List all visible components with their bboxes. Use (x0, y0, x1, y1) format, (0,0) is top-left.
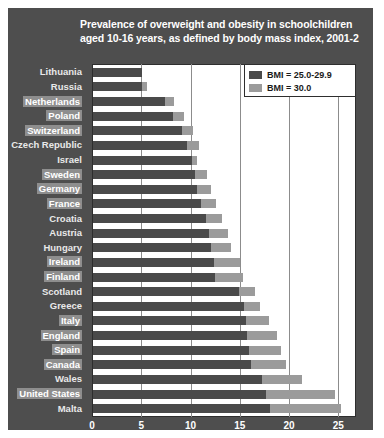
bar-segment-overweight (93, 258, 214, 267)
bar-row (93, 346, 355, 355)
bar-row (93, 97, 355, 106)
bar-segment-overweight (93, 97, 165, 106)
bar-row (93, 404, 355, 413)
bar-segment-overweight (93, 112, 173, 121)
chart-title: Prevalence of overweight and obesity in … (80, 18, 368, 45)
bar-segment-overweight (93, 170, 195, 179)
category-label-austria: Austria (49, 227, 82, 239)
bar-segment-overweight (93, 185, 197, 194)
bar-segment-obese (266, 390, 335, 399)
bar-row (93, 273, 355, 282)
category-label-greece: Greece (50, 300, 82, 312)
bar-segment-obese (239, 287, 255, 296)
category-label-germany: Germany (37, 183, 82, 195)
bar-row (93, 229, 355, 238)
bar-segment-overweight (93, 199, 201, 208)
category-label-croatia: Croatia (49, 213, 82, 225)
category-label-ireland: Ireland (47, 256, 82, 268)
bar-segment-obese (211, 243, 231, 252)
category-label-united-states: United States (17, 388, 82, 400)
chart-figure: Prevalence of overweight and obesity in … (0, 0, 384, 438)
bar-row (93, 302, 355, 311)
bar-segment-obese (182, 126, 194, 135)
bar-segment-overweight (93, 229, 209, 238)
bar-row (93, 258, 355, 267)
bar-row (93, 170, 355, 179)
bar-segment-obese (262, 375, 301, 384)
category-label-poland: Poland (46, 110, 82, 122)
bar-row (93, 360, 355, 369)
legend-item-obese: BMI = 30.0 (249, 81, 351, 94)
bar-segment-overweight (93, 156, 192, 165)
bar-segment-obese (206, 214, 222, 223)
bar-segment-obese (192, 156, 198, 165)
x-tick-label-25: 25 (333, 420, 344, 431)
category-axis-labels: LithuaniaRussiaNetherlandsPolandSwitzerl… (8, 64, 88, 417)
x-tick-label-0: 0 (89, 420, 95, 431)
bar-segment-overweight (93, 141, 187, 150)
bar-row (93, 141, 355, 150)
bar-segment-obese (165, 97, 174, 106)
legend-swatch-overweight-icon (249, 71, 262, 79)
bar-row (93, 214, 355, 223)
chart-title-line-2: aged 10-16 years, as defined by body mas… (80, 32, 368, 46)
chart-panel: Prevalence of overweight and obesity in … (8, 8, 373, 430)
bar-segment-overweight (93, 126, 182, 135)
category-label-switzerland: Switzerland (25, 125, 82, 137)
x-tick-label-20: 20 (283, 420, 294, 431)
bar-segment-obese (251, 360, 286, 369)
category-label-finland: Finland (44, 271, 82, 283)
x-tick-label-15: 15 (234, 420, 245, 431)
bar-row (93, 185, 355, 194)
bar-row (93, 390, 355, 399)
bar-segment-overweight (93, 404, 270, 413)
x-tick-label-10: 10 (185, 420, 196, 431)
bar-row (93, 316, 355, 325)
legend-label-obese: BMI = 30.0 (267, 83, 311, 93)
bar-segment-overweight (93, 302, 244, 311)
bar-segment-overweight (93, 316, 246, 325)
bar-segment-obese (214, 258, 240, 267)
chart-legend: BMI = 25.0-29.9 BMI = 30.0 (244, 64, 356, 97)
bar-segment-overweight (93, 243, 211, 252)
category-label-spain: Spain (52, 344, 82, 356)
bar-segment-obese (173, 112, 184, 121)
legend-swatch-obese-icon (249, 84, 262, 92)
category-label-france: France (47, 198, 82, 210)
bar-segment-obese (215, 273, 243, 282)
bar-segment-overweight (93, 82, 142, 91)
bar-segment-obese (187, 141, 200, 150)
category-label-sweden: Sweden (42, 169, 82, 181)
plot-area (92, 64, 356, 417)
x-tick-label-5: 5 (138, 420, 144, 431)
bar-row (93, 156, 355, 165)
bar-segment-obese (244, 302, 261, 311)
legend-item-overweight: BMI = 25.0-29.9 (249, 68, 351, 81)
bar-segment-obese (249, 346, 282, 355)
bar-segment-obese (195, 170, 207, 179)
category-label-netherlands: Netherlands (23, 96, 82, 108)
bar-row (93, 287, 355, 296)
bar-segment-overweight (93, 360, 251, 369)
bar-segment-overweight (93, 68, 142, 77)
category-label-czech-republic: Czech Republic (11, 139, 82, 151)
category-label-lithuania: Lithuania (40, 66, 82, 78)
category-label-italy: Italy (59, 315, 82, 327)
bar-row (93, 126, 355, 135)
bar-segment-obese (247, 331, 278, 340)
bar-segment-overweight (93, 331, 247, 340)
bar-segment-overweight (93, 214, 206, 223)
bar-segment-obese (209, 229, 228, 238)
category-label-wales: Wales (55, 373, 82, 385)
category-label-england: England (41, 330, 82, 342)
bar-segment-overweight (93, 375, 262, 384)
legend-label-overweight: BMI = 25.0-29.9 (267, 70, 332, 80)
bar-row (93, 331, 355, 340)
value-axis: 0510152025 (92, 417, 356, 438)
category-label-russia: Russia (51, 81, 82, 93)
bar-segment-overweight (93, 390, 266, 399)
bar-segment-obese (197, 185, 211, 194)
category-label-israel: Israel (57, 154, 82, 166)
category-label-hungary: Hungary (43, 242, 82, 254)
bar-row (93, 243, 355, 252)
